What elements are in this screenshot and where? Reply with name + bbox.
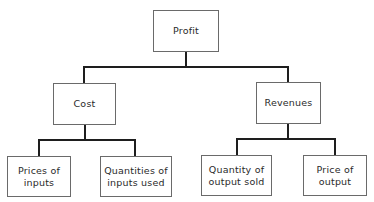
connector-to-cost xyxy=(83,66,85,83)
profit-tree-diagram: Profit Cost Revenues Prices of inputs Qu… xyxy=(0,0,374,202)
node-profit-label: Profit xyxy=(173,25,199,37)
node-revenues: Revenues xyxy=(256,82,321,124)
node-quantities-of-inputs-used: Quantities of inputs used xyxy=(100,156,172,197)
node-prices-of-inputs-label: Prices of inputs xyxy=(18,165,60,189)
connector-to-quantity-of-output xyxy=(236,138,238,155)
node-quantity-of-output-sold: Quantity of output sold xyxy=(201,155,272,196)
connector-to-quantities-of-inputs xyxy=(134,139,136,156)
node-cost-label: Cost xyxy=(74,98,96,110)
node-quantity-of-output-sold-label: Quantity of output sold xyxy=(209,164,265,188)
connector-to-revenues xyxy=(287,66,289,82)
connector-level1-bar xyxy=(83,66,289,68)
connector-revenues-bar xyxy=(236,138,336,140)
node-cost: Cost xyxy=(53,83,116,125)
connector-to-prices-of-inputs xyxy=(38,139,40,156)
node-price-of-output-label: Price of output xyxy=(317,164,354,188)
node-revenues-label: Revenues xyxy=(265,97,313,109)
connector-cost-bar xyxy=(38,139,136,141)
node-price-of-output: Price of output xyxy=(303,155,367,196)
node-quantities-of-inputs-used-label: Quantities of inputs used xyxy=(104,165,168,189)
node-profit: Profit xyxy=(153,10,219,52)
node-prices-of-inputs: Prices of inputs xyxy=(7,156,71,197)
connector-to-price-of-output xyxy=(334,138,336,155)
